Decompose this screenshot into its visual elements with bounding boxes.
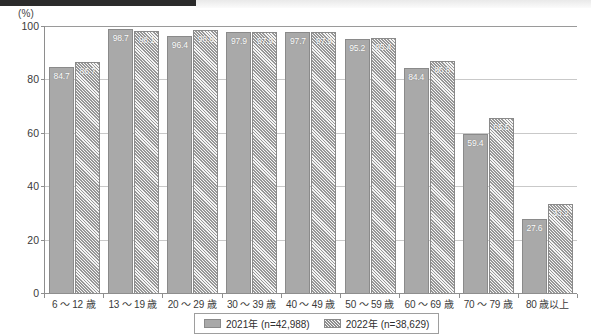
bar-value-label: 84.7 — [54, 71, 70, 81]
bar-value-label: 27.6 — [526, 223, 542, 233]
x-axis-tick-label: 60 〜 69 歳 — [399, 296, 458, 311]
chart-legend: 2021年 (n=42,988) 2022年 (n=38,629) — [194, 313, 439, 334]
x-axis-tick-mark — [340, 294, 341, 298]
bar[interactable]: 98.6 — [193, 30, 218, 293]
bar-group: 96.498.6 — [163, 26, 222, 293]
x-axis-tick-label: 6 〜 12 歳 — [44, 296, 103, 311]
x-axis-tick-label: 30 〜 39 歳 — [222, 296, 281, 311]
bar-groups: 84.786.798.798.196.498.697.997.997.797.9… — [45, 26, 577, 293]
y-axis-unit-label: (%) — [18, 8, 34, 19]
bar-value-label: 86.7 — [80, 66, 96, 76]
bar[interactable]: 95.2 — [345, 39, 370, 293]
y-axis-tick-label: 60 — [27, 127, 39, 139]
bar[interactable]: 97.9 — [252, 32, 277, 293]
bar-group: 97.797.9 — [281, 26, 340, 293]
bar-value-label: 97.9 — [316, 36, 332, 46]
bar[interactable]: 98.1 — [134, 31, 159, 293]
bar-group: 84.786.7 — [45, 26, 104, 293]
bar-value-label: 96.4 — [172, 40, 188, 50]
bar[interactable]: 98.7 — [108, 29, 133, 293]
x-axis-tick-label: 70 〜 79 歳 — [459, 296, 518, 311]
x-axis-tick-mark — [518, 294, 519, 298]
legend-label-2022: 2022年 (n=38,629) — [346, 316, 430, 331]
bar-chart: (%) 020406080100 84.786.798.798.196.498.… — [0, 0, 591, 334]
bar-value-label: 98.1 — [139, 35, 155, 45]
y-axis-tick-label: 80 — [27, 73, 39, 85]
bar-value-label: 84.4 — [408, 72, 424, 82]
bar-value-label: 98.6 — [198, 34, 214, 44]
bar-value-label: 59.4 — [467, 138, 483, 148]
x-axis-tick-mark — [281, 294, 282, 298]
bar[interactable]: 95.4 — [371, 38, 396, 293]
plot-area: 020406080100 84.786.798.798.196.498.697.… — [44, 26, 577, 294]
x-axis-tick-label: 40 〜 49 歳 — [281, 296, 340, 311]
bar-value-label: 33.2 — [552, 208, 568, 218]
x-axis-tick-label: 20 〜 29 歳 — [162, 296, 221, 311]
bar[interactable]: 96.4 — [167, 36, 192, 293]
bar-group: 98.798.1 — [104, 26, 163, 293]
bar[interactable]: 86.7 — [75, 62, 100, 293]
x-axis-tick-mark — [459, 294, 460, 298]
legend-swatch-2021 — [204, 319, 221, 328]
bar[interactable]: 97.7 — [285, 32, 310, 293]
bar-value-label: 97.9 — [257, 36, 273, 46]
x-axis-tick-mark — [577, 294, 578, 298]
bar[interactable]: 86.8 — [430, 61, 455, 293]
y-axis-tick-label: 20 — [27, 234, 39, 246]
bar-value-label: 95.2 — [349, 43, 365, 53]
bar[interactable]: 33.2 — [548, 204, 573, 293]
bar[interactable]: 97.9 — [226, 32, 251, 293]
y-axis-tick-label: 0 — [33, 287, 39, 299]
bar[interactable]: 27.6 — [522, 219, 547, 293]
legend-item-2021: 2021年 (n=42,988) — [204, 316, 310, 331]
x-axis-labels: 6 〜 12 歳13 〜 19 歳20 〜 29 歳30 〜 39 歳40 〜 … — [44, 296, 577, 311]
bar-group: 97.997.9 — [222, 26, 281, 293]
x-axis-tick-label: 13 〜 19 歳 — [103, 296, 162, 311]
legend-item-2022: 2022年 (n=38,629) — [324, 316, 430, 331]
bar-value-label: 98.7 — [113, 33, 129, 43]
x-axis-tick-label: 50 〜 59 歳 — [340, 296, 399, 311]
bar-group: 27.633.2 — [518, 26, 577, 293]
bar[interactable]: 84.7 — [49, 67, 74, 293]
bar-value-label: 97.9 — [231, 36, 247, 46]
bar[interactable]: 65.5 — [489, 118, 514, 293]
bar[interactable]: 59.4 — [463, 134, 488, 293]
bar[interactable]: 84.4 — [404, 68, 429, 293]
bar-value-label: 86.8 — [434, 65, 450, 75]
x-axis-tick-mark — [103, 294, 104, 298]
bar-value-label: 97.7 — [290, 36, 306, 46]
legend-swatch-2022 — [324, 319, 341, 328]
y-axis-tick-label: 100 — [21, 20, 39, 32]
bar-value-label: 65.5 — [493, 122, 509, 132]
bar[interactable]: 97.9 — [311, 32, 336, 293]
x-axis-tick-mark — [222, 294, 223, 298]
y-axis-tick-label: 40 — [27, 180, 39, 192]
x-axis-tick-label: 80 歳以上 — [518, 296, 577, 311]
bar-group: 59.465.5 — [459, 26, 518, 293]
x-axis-tick-mark — [44, 294, 45, 298]
bar-group: 95.295.4 — [341, 26, 400, 293]
x-axis-tick-mark — [399, 294, 400, 298]
legend-label-2021: 2021年 (n=42,988) — [226, 316, 310, 331]
x-axis-tick-mark — [162, 294, 163, 298]
bar-group: 84.486.8 — [400, 26, 459, 293]
bar-value-label: 95.4 — [375, 42, 391, 52]
